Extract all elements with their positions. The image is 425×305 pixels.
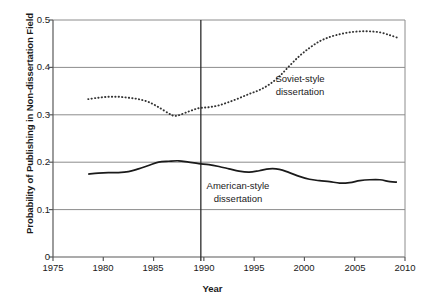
y-tick-label: 0 <box>10 252 50 262</box>
y-tick-label: 0.3 <box>10 110 50 120</box>
y-tick-label: 0.2 <box>10 157 50 167</box>
y-tick-label: 0.1 <box>10 205 50 215</box>
annotation-soviet-style: Soviet-style dissertation <box>255 73 345 98</box>
x-tick-label: 2000 <box>282 262 326 273</box>
y-tick-label: 0.5 <box>10 15 50 25</box>
plot-area <box>0 0 425 305</box>
x-axis-label: Year <box>0 283 425 294</box>
x-tick-label: 1995 <box>232 262 276 273</box>
x-tick-label: 1980 <box>81 262 125 273</box>
y-axis-tick-labels: 0.5 0.4 0.3 0.2 0.1 0 <box>8 0 50 305</box>
annotation-american-style: American-style dissertation <box>183 180 293 205</box>
axis-ticks <box>49 20 405 261</box>
x-tick-label: 2010 <box>383 262 425 273</box>
series-line-soviet-style <box>88 31 397 116</box>
chart-figure: Probability of Publishing in Non-dissert… <box>0 0 425 305</box>
x-tick-label: 1990 <box>182 262 226 273</box>
x-tick-label: 2005 <box>333 262 377 273</box>
x-tick-label: 1985 <box>131 262 175 273</box>
y-tick-label: 0.4 <box>10 62 50 72</box>
x-tick-label: 1975 <box>31 262 75 273</box>
